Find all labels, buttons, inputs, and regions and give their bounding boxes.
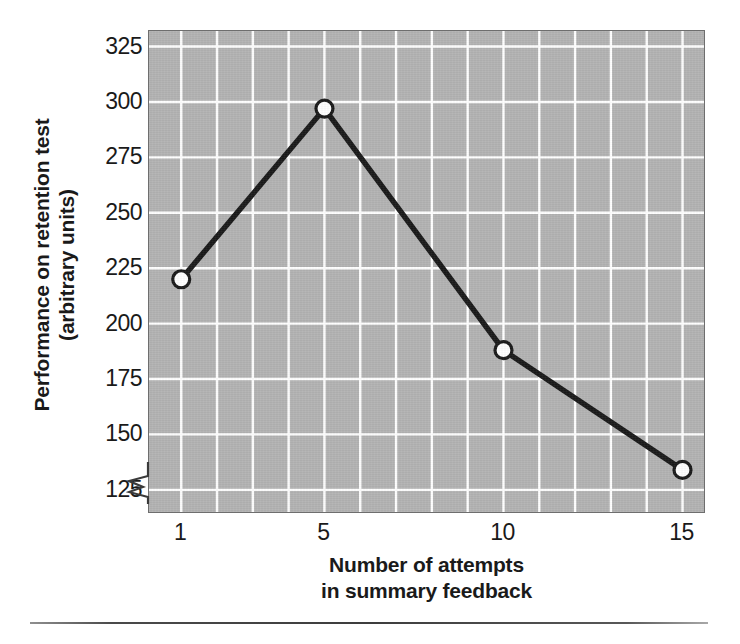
horizontal-gridlines [149, 47, 704, 490]
x-axis-title: Number of attempts in summary feedback [148, 552, 705, 603]
data-point-marker [316, 100, 333, 117]
y-axis-tick-label: 250 [105, 198, 142, 225]
y-axis-title-text: Performance on retention test (arbitrary… [30, 119, 80, 412]
y-axis-tick-label: 300 [105, 87, 142, 114]
chart-svg [149, 31, 704, 512]
x-axis-tick-label: 5 [317, 519, 329, 546]
x-axis-tick-labels: 151015 [0, 519, 740, 553]
y-axis-title: Performance on retention test (arbitrary… [18, 30, 92, 500]
x-axis-tick-label: 15 [669, 519, 694, 546]
plot-area [148, 30, 705, 513]
axis-break-icon [126, 462, 156, 504]
y-axis-tick-label: 325 [105, 32, 142, 59]
figure-panel: Performance on retention test (arbitrary… [0, 0, 740, 644]
data-point-marker [674, 461, 691, 478]
x-axis-tick-label: 1 [174, 519, 186, 546]
data-point-marker [495, 342, 512, 359]
y-axis-title-line-1: Performance on retention test [30, 119, 53, 412]
x-axis-title-line-2: in summary feedback [148, 578, 705, 604]
y-axis-tick-label: 225 [105, 254, 142, 281]
x-axis-title-line-1: Number of attempts [329, 553, 524, 576]
y-axis-tick-label: 200 [105, 309, 142, 336]
x-axis-tick-label: 10 [490, 519, 515, 546]
data-point-marker [173, 271, 190, 288]
vertical-gridlines [181, 31, 682, 512]
y-axis-tick-label: 150 [105, 420, 142, 447]
y-axis-tick-label: 175 [105, 365, 142, 392]
y-axis-title-line-2: (arbitrary units) [55, 119, 80, 412]
bottom-rule-divider [30, 622, 708, 624]
y-axis-tick-label: 275 [105, 143, 142, 170]
